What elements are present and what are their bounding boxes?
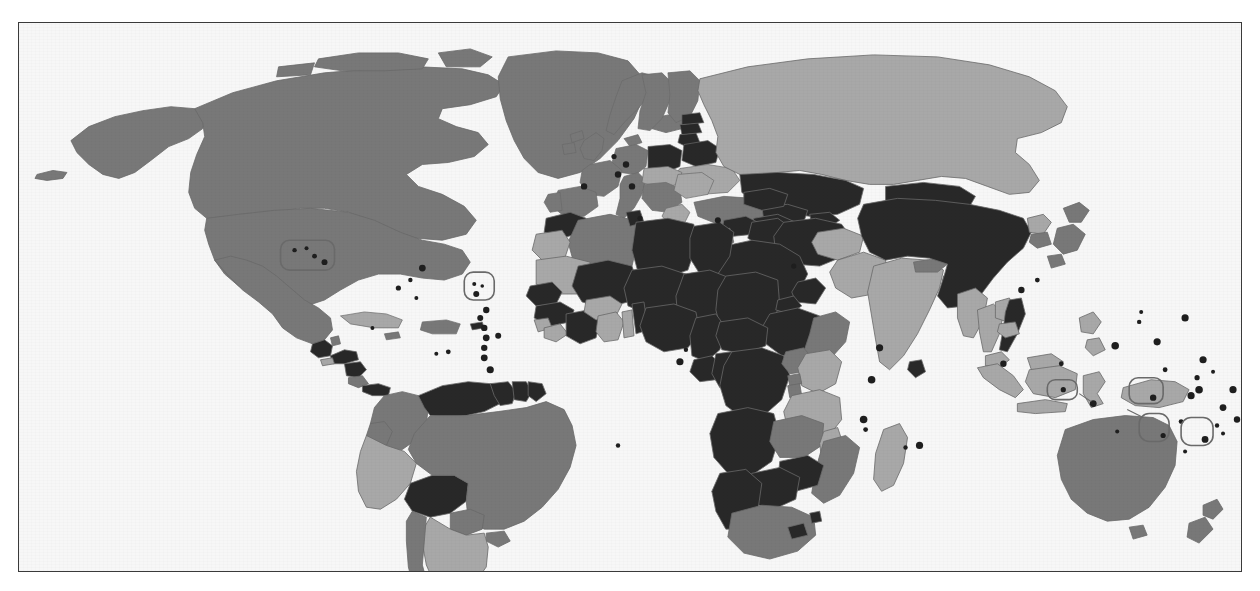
island-marker-brunei <box>1059 361 1064 366</box>
island-marker-curacao <box>446 349 451 354</box>
island-marker-micronesia <box>1154 338 1161 345</box>
island-marker-trinidad <box>487 366 494 373</box>
island-marker-taiwan <box>1035 278 1040 283</box>
island-marker-guam <box>1137 320 1141 324</box>
island-marker-hong-kong <box>1018 287 1024 293</box>
island-marker-turks <box>414 296 418 300</box>
island-marker-sao-tome <box>676 358 683 365</box>
inset-dot-timor <box>1061 387 1066 392</box>
inset-dot-fiji <box>1202 436 1209 443</box>
island-marker-pacific-a <box>1139 310 1143 314</box>
inset-dot-capeverde-a <box>472 282 476 286</box>
island-marker-bioko <box>684 348 688 352</box>
island-marker-comoros <box>860 416 868 424</box>
island-marker-nauru <box>1163 367 1168 372</box>
island-marker-maldives <box>876 344 883 351</box>
island-marker-png-dot <box>1187 392 1194 399</box>
island-marker-cyprus <box>715 217 721 223</box>
island-marker-comoros-b <box>863 427 868 432</box>
island-marker-samoa <box>1229 386 1236 393</box>
island-marker-malta <box>637 216 642 221</box>
inset-dot-capeverde-c <box>473 291 479 297</box>
island-marker-tonga <box>1220 404 1227 411</box>
map-frame <box>18 22 1242 572</box>
region-belarus <box>682 141 720 167</box>
island-marker-dominica <box>481 325 487 331</box>
island-marker-stlucia <box>483 334 490 341</box>
island-marker-reunion <box>903 445 907 449</box>
inset-dot-caribbean-b <box>305 246 309 250</box>
island-marker-stvincent <box>481 345 487 351</box>
page-root: High Medium Low No data <box>0 0 1260 591</box>
island-marker-palau <box>1111 342 1119 350</box>
island-marker-pacific-b <box>1211 370 1215 374</box>
inset-dot-vanuatu <box>1161 433 1166 438</box>
inset-dot-caribbean-a <box>292 248 296 252</box>
world-map <box>19 23 1241 571</box>
island-marker-pacific-d <box>1115 430 1119 434</box>
island-marker-stkitts <box>477 315 483 321</box>
island-marker-pacific-c <box>1221 432 1225 436</box>
region-romania <box>674 172 714 198</box>
region-ireland <box>562 143 576 155</box>
island-marker-niue <box>1215 423 1219 427</box>
region-estonia <box>682 113 704 125</box>
island-marker-luxembourg <box>611 154 616 159</box>
region-eswatini <box>810 511 822 523</box>
island-marker-tuvalu <box>1194 375 1199 380</box>
island-marker-mauritius <box>916 442 923 449</box>
island-marker-liechtenstein <box>623 161 629 167</box>
inset-dot-solomon <box>1150 394 1156 400</box>
island-marker-aruba <box>434 352 438 356</box>
island-marker-barbados <box>495 333 501 339</box>
island-marker-st-helena <box>616 443 620 447</box>
island-marker-bahrain <box>791 264 796 269</box>
island-marker-marshall <box>1181 314 1188 321</box>
region-togo <box>622 310 634 338</box>
island-marker-bahamas-b <box>408 278 412 282</box>
island-marker-monaco <box>615 171 621 177</box>
island-marker-cook <box>1234 416 1240 422</box>
island-marker-singapore <box>1000 361 1006 367</box>
island-marker-seychelles <box>868 376 876 384</box>
region-belize <box>330 336 340 346</box>
island-marker-solomon <box>1195 386 1203 394</box>
island-marker-cayman <box>370 326 374 330</box>
island-marker-andorra <box>581 183 587 189</box>
island-marker-grenada <box>481 354 488 361</box>
island-marker-bahamas-a <box>396 285 401 290</box>
island-marker-pacific-e <box>1183 449 1187 453</box>
island-marker-bermuda <box>419 265 426 272</box>
island-marker-san-marino <box>629 183 635 189</box>
inset-dot-capeverde-b <box>480 284 484 288</box>
region-hispaniola <box>420 320 460 334</box>
island-marker-antigua <box>483 307 489 313</box>
island-marker-kiribati <box>1199 356 1206 363</box>
inset-dot-caribbean-d <box>322 259 328 265</box>
inset-dot-caribbean-c <box>312 254 317 259</box>
